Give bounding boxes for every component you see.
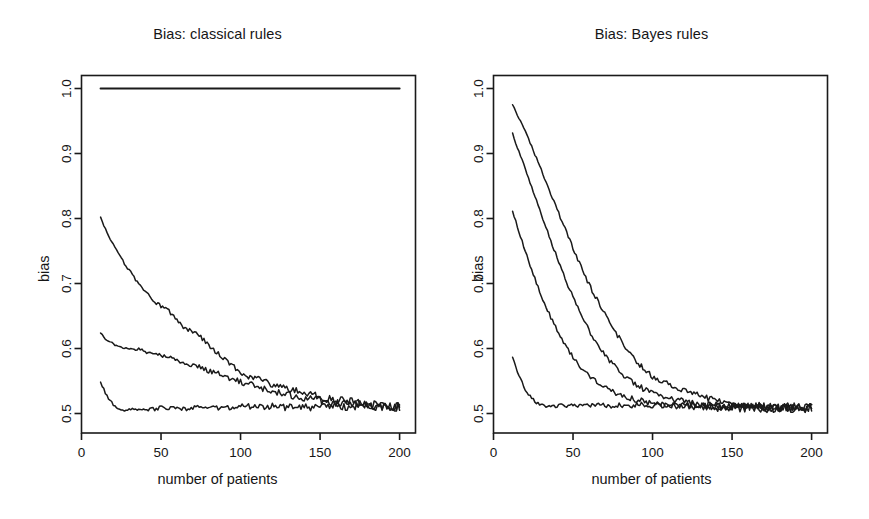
y-tick-label: 0.9 — [59, 144, 74, 163]
x-tick-label: 0 — [490, 445, 498, 460]
y-tick-label: 1.0 — [471, 79, 486, 98]
y-tick-label: 0.6 — [471, 339, 486, 358]
series-line-middle-decay — [101, 333, 400, 411]
series-line-upper-decay — [101, 217, 400, 410]
plot-area-bayes: 0501001502000.50.60.70.80.91.0 — [434, 0, 869, 519]
x-tick-label: 150 — [721, 445, 744, 460]
plot-area-classical: 0501001502000.50.60.70.80.91.0 — [0, 0, 435, 519]
x-tick-label: 50 — [154, 445, 169, 460]
x-tick-label: 50 — [566, 445, 581, 460]
panel-classical-rules: Bias: classical rules bias number of pat… — [0, 0, 435, 519]
plot-frame-bayes — [494, 76, 828, 434]
y-tick-label: 0.7 — [471, 274, 486, 293]
x-tick-label: 0 — [78, 445, 86, 460]
x-tick-label: 200 — [388, 445, 411, 460]
y-tick-label: 0.7 — [59, 274, 74, 293]
data-curves-bayes — [513, 105, 812, 413]
x-tick-label: 100 — [229, 445, 252, 460]
x-tick-label: 100 — [641, 445, 664, 460]
x-tick-label: 150 — [309, 445, 332, 460]
panel-bayes-rules: Bias: Bayes rules bias number of patient… — [434, 0, 869, 519]
y-tick-label: 0.5 — [59, 404, 74, 423]
series-line-curve-2 — [513, 133, 812, 412]
y-tick-label: 0.8 — [59, 209, 74, 228]
y-tick-label: 0.8 — [471, 209, 486, 228]
data-curves-classical — [101, 89, 400, 412]
y-tick-label: 0.5 — [471, 404, 486, 423]
y-tick-label: 0.9 — [471, 144, 486, 163]
series-line-lower-flat — [101, 382, 400, 411]
x-tick-label: 200 — [800, 445, 823, 460]
figure-two-panel-bias-plot: Bias: classical rules bias number of pat… — [0, 0, 869, 519]
y-tick-label: 0.6 — [59, 339, 74, 358]
y-tick-label: 1.0 — [59, 79, 74, 98]
